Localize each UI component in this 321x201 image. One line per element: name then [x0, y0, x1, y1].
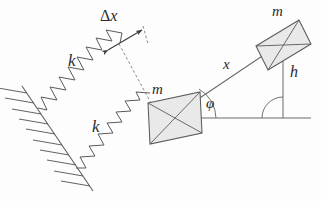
wall-hatching [0, 88, 90, 186]
mass-block-left [148, 92, 202, 144]
label-delta-x-var: x [110, 7, 117, 24]
construction-lines [119, 26, 151, 103]
label-height-h: h [290, 64, 298, 80]
spring-upper [38, 30, 122, 110]
label-mass-right: m [272, 4, 283, 19]
label-delta-x: Δx [100, 8, 117, 24]
label-mass-left: m [152, 82, 163, 97]
label-spring-constant-upper: k [68, 52, 76, 69]
label-delta-symbol: Δ [100, 7, 110, 24]
wall-support [0, 86, 93, 191]
label-spring-constant-lower: k [92, 118, 100, 135]
displacement-arrow [108, 30, 142, 50]
spring-lower [76, 92, 150, 168]
label-angle-phi: φ [206, 96, 214, 111]
label-distance-x: x [223, 57, 230, 72]
physics-diagram: Δx k k m m x h φ [0, 0, 321, 201]
right-angle-marker [262, 97, 283, 118]
diagram-canvas [0, 0, 321, 201]
